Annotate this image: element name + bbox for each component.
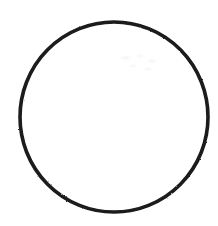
diagram-svg xyxy=(0,0,218,226)
circle-fraction-diagram: left half upper right quarter lower righ… xyxy=(0,0,218,226)
